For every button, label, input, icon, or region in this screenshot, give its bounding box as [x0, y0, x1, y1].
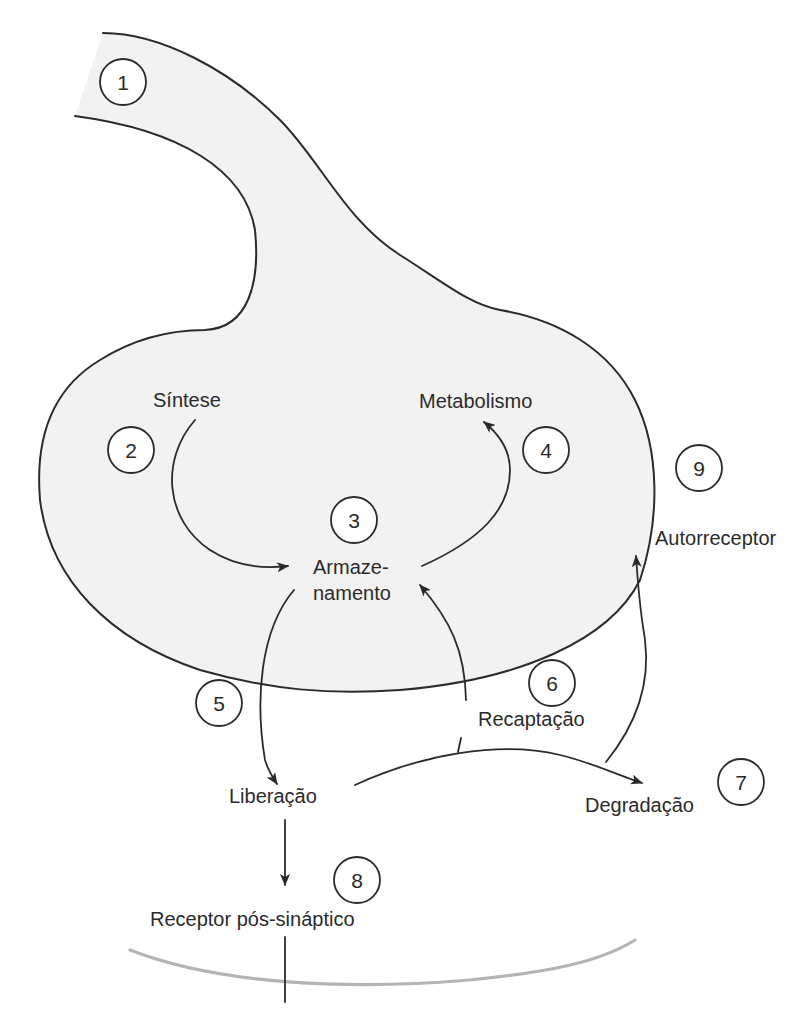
label-receptor-pos-sinaptico: Receptor pós-sináptico [150, 908, 355, 930]
marker-6: 6 [529, 660, 575, 706]
arrow-liberacao-to-degradacao [355, 749, 642, 785]
marker-9: 9 [676, 445, 722, 491]
marker-5: 5 [196, 680, 242, 726]
label-metabolismo: Metabolismo [419, 390, 532, 412]
label-armazenamento-line2: namento [313, 582, 391, 604]
marker-3: 3 [331, 497, 377, 543]
marker-4: 4 [523, 427, 569, 473]
label-sintese: Síntese [153, 389, 221, 411]
label-degradacao: Degradação [585, 794, 694, 816]
marker-2: 2 [108, 427, 154, 473]
svg-text:3: 3 [348, 509, 360, 532]
postsynaptic-membrane [130, 940, 635, 985]
recaptacao-branch [458, 738, 461, 752]
svg-text:9: 9 [693, 457, 705, 480]
label-armazenamento-line1: Armaze- [313, 556, 389, 578]
svg-text:8: 8 [351, 869, 363, 892]
svg-text:1: 1 [117, 71, 129, 94]
svg-text:6: 6 [546, 672, 558, 695]
svg-text:4: 4 [540, 439, 552, 462]
label-autorreceptor: Autorreceptor [655, 527, 777, 549]
svg-text:7: 7 [735, 771, 747, 794]
neurotransmission-diagram: 1 2 3 4 5 6 7 8 9 Síntese Metabolismo Ar… [0, 0, 812, 1020]
marker-8: 8 [334, 857, 380, 903]
marker-1: 1 [100, 59, 146, 105]
marker-7: 7 [718, 759, 764, 805]
label-liberacao: Liberação [229, 785, 317, 807]
label-recaptacao: Recaptação [478, 708, 585, 730]
svg-text:5: 5 [213, 692, 225, 715]
svg-text:2: 2 [125, 439, 137, 462]
